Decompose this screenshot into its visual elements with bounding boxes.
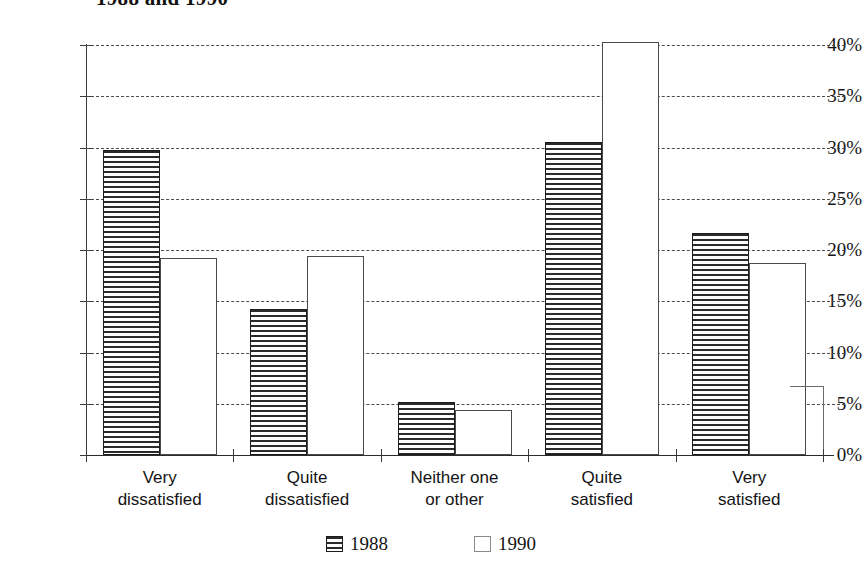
- x-axis-category-label: Neither oneor other: [381, 467, 528, 511]
- x-axis-tick: [381, 449, 382, 462]
- gridline: [86, 45, 845, 46]
- x-axis-category-label-line: dissatisfied: [233, 489, 380, 511]
- striped-swatch-icon: [326, 536, 343, 552]
- x-axis-tick: [86, 449, 87, 462]
- x-axis-tick: [676, 449, 677, 462]
- x-axis-category-label-line: Quite: [528, 467, 675, 489]
- gridline: [86, 148, 845, 149]
- x-axis-category-label: Verysatisfied: [676, 467, 823, 511]
- x-axis-category-label: Quitedissatisfied: [233, 467, 380, 511]
- x-axis-category-label-line: satisfied: [676, 489, 823, 511]
- bar-1988-very-dissatisfied: [103, 150, 160, 455]
- x-axis-category-label-line: satisfied: [528, 489, 675, 511]
- legend-item-1990[interactable]: 1990: [474, 533, 536, 555]
- empty-swatch-icon: [474, 536, 491, 552]
- bar-1990-quite-dissatisfied: [307, 256, 364, 455]
- x-axis-category-label-line: Neither one: [381, 467, 528, 489]
- x-axis-category-label: Verydissatisfied: [86, 467, 233, 511]
- plot-area: [86, 45, 823, 455]
- page-title: 1988 and 1990: [96, 0, 396, 12]
- gridline: [86, 199, 845, 200]
- x-axis-category-label-line: Very: [86, 467, 233, 489]
- bar-1988-very-satisfied: [692, 233, 749, 455]
- x-axis-category-label-line: dissatisfied: [86, 489, 233, 511]
- x-axis-category-label-line: Very: [676, 467, 823, 489]
- chart-legend: 19881990: [0, 533, 862, 555]
- bar-1988-neither-one-or-other: [398, 402, 455, 455]
- legend-item-1988[interactable]: 1988: [326, 533, 388, 555]
- x-axis-category-label: Quitesatisfied: [528, 467, 675, 511]
- x-axis-tick: [233, 449, 234, 462]
- gridline: [86, 96, 845, 97]
- bar-1990-neither-one-or-other: [455, 410, 512, 455]
- plot-right-edge: [823, 386, 824, 456]
- legend-item-label: 1990: [498, 533, 536, 555]
- x-axis-tick: [823, 449, 824, 462]
- x-axis-category-label-line: Quite: [233, 467, 380, 489]
- bar-1990-very-dissatisfied: [160, 258, 217, 455]
- bar-1988-quite-dissatisfied: [250, 309, 307, 455]
- bar-1990-quite-satisfied: [602, 42, 659, 455]
- legend-item-label: 1988: [350, 533, 388, 555]
- plot-right-edge-cap: [790, 386, 824, 387]
- bar-1990-very-satisfied: [749, 263, 806, 455]
- axis-baseline: [86, 455, 834, 456]
- bar-chart: 1988 and 1990 0%5%10%15%20%25%30%35%40% …: [0, 0, 862, 574]
- x-axis-category-label-line: or other: [381, 489, 528, 511]
- bar-1988-quite-satisfied: [545, 142, 602, 455]
- x-axis-tick: [528, 449, 529, 462]
